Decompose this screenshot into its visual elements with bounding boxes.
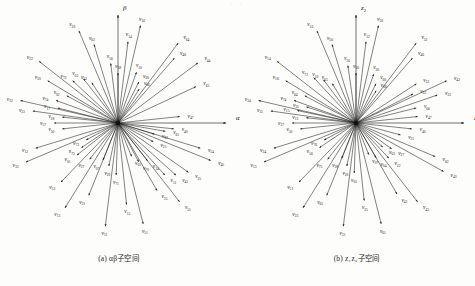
vector-label: v34 [245,96,251,104]
vector-label: v50 [377,16,383,24]
vector-label: v21 [160,142,166,150]
vector: v73 [73,123,118,147]
vector-label: v15 [257,107,263,115]
vector-label: v56 [107,53,113,61]
vector-label: v35 [162,193,168,201]
vector-label: v31 [79,199,85,207]
vector-label: v01 [65,156,71,164]
vector-label: v66 [424,103,430,111]
vector-label: v18 [48,113,54,121]
vector-label: v40 [182,126,188,134]
vector-line [328,123,356,159]
vector-label: v20 [104,170,110,178]
vector-line [77,123,118,155]
vector-label: v16 [273,74,279,82]
vector-label: v03 [72,70,78,78]
vector-label: v10 [136,62,142,70]
vector-label: v33 [445,90,451,98]
vector-label: v05 [322,74,328,82]
figure-root: · · αβv11v51v13v55v31v53v15v35v33v12v32v… [0,0,475,286]
vector-label: v14 [153,163,159,171]
vector-label: v15 [124,208,130,216]
vector-label: v53 [49,184,55,192]
vector: v32 [356,77,429,123]
vector-label: v57 [40,120,46,128]
vector-label: v16 [139,16,145,24]
vector-label: v62 [443,156,449,164]
vector-label: v21 [408,134,414,142]
panel-alpha-beta: αβv11v51v13v55v31v53v15v35v33v12v32v23v2… [0,0,237,286]
vector-label: v16 [307,21,313,29]
vector: v20 [342,123,356,177]
vector: v27 [78,123,118,169]
vector-label: v41 [402,197,408,205]
vector: v52 [356,34,428,123]
vector-label: v10 [312,71,318,79]
vector-label: v32 [423,77,429,85]
vector: v42 [356,75,460,123]
vector-label: v45 [218,160,224,168]
vector: v76 [311,123,356,147]
vector-label: v27 [78,162,84,170]
vector-label: v11 [102,230,108,238]
vector-line [73,81,118,123]
vector-line [118,58,174,123]
vector-label: v61 [380,228,386,236]
vector: v28 [332,123,356,169]
vector-line [82,123,118,148]
vector-line [92,83,118,123]
vector-label: v13 [54,211,60,219]
vector-label: v65 [317,199,323,207]
vector: v64 [292,89,356,123]
vector-label: v42 [454,75,460,83]
vector-label: v75 [316,162,322,170]
vector-label: v52 [81,74,87,82]
vector: v61 [356,123,386,235]
vector-label: v26 [373,64,379,72]
vector-line [118,42,128,123]
vector-label: v56 [307,148,313,156]
vector: v50 [356,16,383,123]
vector-label: v07 [372,158,378,166]
vector-label: v61 [173,129,179,137]
vector: v11 [102,123,118,237]
vector: v03 [72,70,118,123]
vector-label: v62 [89,35,95,43]
vector-line [320,123,356,148]
vector-label: v54 [208,147,214,155]
vector-label: v06 [144,80,150,88]
caption-panel-b: (b) z₁z₂子空间 [238,252,475,263]
vector-label: v41 [182,177,188,185]
vector: v46 [356,50,424,123]
vector: v72 [61,73,118,123]
vector: v20 [104,123,118,177]
vector-label: v43 [451,172,457,180]
vector-label: v76 [311,140,317,148]
vector-line [90,123,118,159]
vector-label: v22 [27,54,33,62]
vector: v62 [356,123,449,164]
vector-label: v50 [48,126,54,134]
vector-label: v44 [204,55,210,63]
vector-line [300,123,356,129]
vector-label: v12 [364,31,370,39]
vector-label: v25 [362,204,368,212]
vector-label: v64 [292,89,298,97]
vector-label: v65 [203,80,209,88]
vector: v44 [118,55,211,123]
vector: v57 [40,120,118,128]
vector-line [356,108,416,123]
vector-line [264,123,356,162]
vector-label: v14 [265,54,271,62]
vector-label: v71 [113,179,119,187]
vector-label: v72 [302,69,308,77]
vector-label: v30 [35,74,41,82]
panel-z1-z2: z1z2v31v61v23v43v65v25v51v41v13v24v34v15… [238,0,475,286]
vector-line [118,123,211,160]
vector-label: v51 [142,228,148,236]
vector: v07 [93,123,118,171]
vector-label: v35 [293,102,299,110]
vector-label: v64 [183,34,189,42]
diagram-alpha-beta: αβv11v51v13v55v31v53v15v35v33v12v32v23v2… [0,0,237,250]
vector-line [348,66,356,123]
